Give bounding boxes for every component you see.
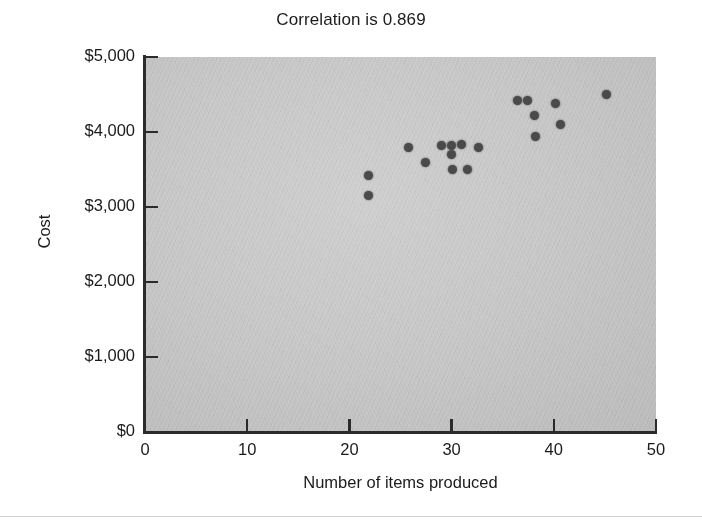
x-tick-mark [348, 419, 351, 432]
data-point [457, 140, 466, 149]
plot-background-vignette [145, 57, 656, 432]
data-point [474, 143, 483, 152]
scatter-plot-figure: Correlation is 0.869 $0$1,000$2,000$3,00… [0, 0, 702, 525]
data-point [364, 171, 373, 180]
x-axis-title: Number of items produced [145, 473, 656, 492]
data-point [447, 141, 456, 150]
y-tick-mark [145, 281, 158, 284]
page-divider-rule [0, 516, 702, 517]
x-tick-label: 10 [217, 440, 277, 459]
x-tick-label: 0 [115, 440, 175, 459]
x-tick-label: 20 [319, 440, 379, 459]
x-tick-mark [144, 419, 147, 432]
y-tick-mark [145, 56, 158, 59]
y-tick-mark [145, 431, 158, 434]
plot-background-texture [145, 57, 656, 432]
y-axis-title: Cost [35, 172, 54, 292]
data-point [523, 96, 532, 105]
x-tick-label: 40 [524, 440, 584, 459]
y-tick-mark [145, 206, 158, 209]
plot-area [145, 57, 656, 432]
y-tick-label: $5,000 [27, 46, 135, 65]
x-tick-mark [553, 419, 556, 432]
data-point [421, 158, 430, 167]
x-tick-label: 30 [422, 440, 482, 459]
y-tick-mark [145, 356, 158, 359]
x-tick-mark [450, 419, 453, 432]
x-tick-mark [246, 419, 249, 432]
y-tick-label: $1,000 [27, 346, 135, 365]
x-tick-mark [655, 419, 658, 432]
x-axis-line [143, 431, 657, 434]
data-point [364, 191, 373, 200]
y-tick-label: $0 [27, 421, 135, 440]
y-tick-label: $4,000 [27, 121, 135, 140]
y-tick-mark [145, 131, 158, 134]
data-point [513, 96, 522, 105]
data-point [404, 143, 413, 152]
y-axis-line [143, 55, 146, 434]
x-tick-label: 50 [626, 440, 686, 459]
